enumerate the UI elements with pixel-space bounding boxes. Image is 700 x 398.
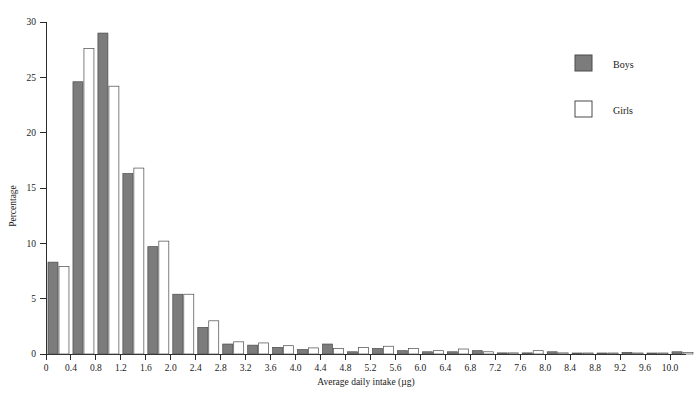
bar-boys — [173, 294, 183, 354]
bar-girls — [84, 49, 94, 354]
y-tick-label: 25 — [27, 73, 37, 83]
bar-girls — [633, 353, 643, 354]
x-tick-label: 3.2 — [240, 363, 252, 373]
legend-swatch-boys — [575, 55, 592, 71]
bar-girls — [209, 321, 219, 354]
bar-boys — [98, 33, 108, 354]
y-axis-ticks: 051015202530 — [27, 17, 47, 359]
x-tick-label: 8.4 — [564, 363, 576, 373]
x-tick-label: 7.6 — [514, 363, 526, 373]
x-tick-label: 2.8 — [215, 363, 227, 373]
bar-boys — [672, 352, 682, 354]
bar-boys — [298, 350, 308, 354]
x-tick-label: 0 — [44, 363, 49, 373]
x-tick-label: 5.2 — [365, 363, 377, 373]
chart-legend: Boys Girls — [575, 55, 634, 117]
bar-boys — [273, 347, 283, 354]
bar-boys — [323, 344, 333, 354]
x-tick-label: 10.0 — [662, 363, 679, 373]
bar-boys — [223, 344, 233, 354]
bar-girls — [558, 353, 568, 354]
x-tick-label: 8.8 — [589, 363, 601, 373]
x-tick-label: 7.2 — [489, 363, 501, 373]
bar-boys — [647, 353, 657, 354]
bar-girls — [109, 86, 119, 354]
bar-girls — [583, 353, 593, 354]
bar-girls — [683, 352, 693, 354]
legend-label-girls: Girls — [613, 105, 633, 116]
x-tick-label: 0.8 — [90, 363, 102, 373]
x-tick-label: 6.4 — [439, 363, 451, 373]
y-tick-label: 10 — [27, 239, 37, 249]
bar-boys — [547, 352, 557, 354]
bar-boys — [73, 82, 83, 354]
x-tick-label: 5.6 — [390, 363, 402, 373]
x-axis-title: Average daily intake (µg) — [317, 377, 414, 388]
x-tick-label: 6.0 — [414, 363, 426, 373]
y-tick-label: 15 — [27, 183, 37, 193]
bar-boys — [348, 352, 358, 354]
y-tick-label: 20 — [27, 128, 37, 138]
bar-boys — [397, 351, 407, 354]
chart-container: 051015202530 00.40.81.21.62.02.42.83.23.… — [0, 0, 700, 398]
bar-girls — [309, 348, 319, 354]
bar-boys — [497, 353, 507, 354]
x-tick-label: 0.4 — [65, 363, 77, 373]
x-tick-label: 2.4 — [190, 363, 202, 373]
bar-boys — [123, 174, 133, 354]
y-tick-label: 30 — [27, 17, 37, 27]
x-tick-label: 1.2 — [115, 363, 127, 373]
bar-girls — [184, 294, 194, 354]
bar-girls — [59, 267, 69, 354]
bar-girls — [359, 347, 369, 354]
x-tick-label: 9.2 — [614, 363, 626, 373]
bar-chart: 051015202530 00.40.81.21.62.02.42.83.23.… — [0, 0, 700, 398]
bar-boys — [248, 345, 258, 354]
y-tick-label: 0 — [31, 349, 36, 359]
legend-swatch-girls — [575, 101, 592, 117]
x-tick-label: 2.0 — [165, 363, 177, 373]
bar-girls — [508, 353, 518, 354]
bar-boys — [447, 352, 457, 354]
bar-girls — [284, 346, 294, 354]
bar-boys — [148, 247, 158, 354]
bar-girls — [159, 241, 169, 354]
bar-boys — [597, 353, 607, 354]
bar-boys — [622, 352, 632, 354]
y-tick-label: 5 — [31, 294, 36, 304]
bar-girls — [259, 343, 269, 354]
x-axis-ticks: 00.40.81.21.62.02.42.83.23.64.04.44.85.2… — [44, 354, 679, 373]
x-tick-label: 4.4 — [315, 363, 327, 373]
bar-girls — [433, 351, 443, 354]
bar-boys — [372, 348, 382, 354]
x-tick-label: 1.6 — [140, 363, 152, 373]
bar-girls — [458, 349, 468, 354]
x-tick-label: 8.0 — [539, 363, 551, 373]
y-axis-title: Percentage — [8, 185, 18, 227]
bar-girls — [533, 351, 543, 354]
x-tick-label: 3.6 — [265, 363, 277, 373]
bar-boys — [422, 352, 432, 354]
bar-girls — [234, 342, 244, 354]
bar-girls — [408, 348, 418, 354]
bar-girls — [134, 168, 144, 354]
bar-boys — [572, 353, 582, 354]
bar-boys — [198, 327, 208, 354]
x-tick-label: 9.6 — [639, 363, 651, 373]
bar-girls — [383, 346, 393, 354]
x-tick-label: 6.8 — [464, 363, 476, 373]
bar-girls — [334, 348, 344, 354]
bar-boys — [472, 351, 482, 354]
bar-girls — [483, 352, 493, 354]
bar-girls — [608, 353, 618, 354]
bar-girls — [658, 353, 668, 354]
x-tick-label: 4.0 — [290, 363, 302, 373]
legend-label-boys: Boys — [613, 59, 634, 70]
bar-boys — [48, 262, 58, 354]
bar-boys — [522, 353, 532, 354]
x-tick-label: 4.8 — [340, 363, 352, 373]
